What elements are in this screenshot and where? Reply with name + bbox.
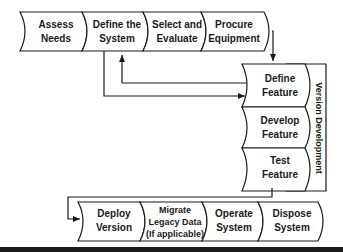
step-define-feature: Define Feature (242, 64, 310, 107)
step-label: Evaluate (156, 33, 198, 44)
step-label: Version (96, 222, 132, 233)
step-label: Operate (215, 208, 253, 219)
bottom-border-bar (0, 247, 343, 252)
step-label: Define (265, 73, 296, 84)
step-assess-needs: Assess Needs (20, 12, 87, 51)
step-label: Select and (152, 19, 202, 30)
step-dispose-system: Dispose System (258, 202, 323, 241)
step-label: Test (270, 155, 290, 166)
step-label: Migrate (159, 205, 191, 215)
bottom-row: Deploy Version Migrate Legacy Data (If a… (78, 202, 323, 241)
step-label: Define the (93, 19, 142, 30)
step-label: Feature (262, 169, 299, 180)
step-deploy-version: Deploy Version (78, 202, 145, 241)
version-development-label: Version Development (314, 82, 324, 174)
step-label: Needs (41, 33, 71, 44)
step-label: Procure (215, 19, 253, 30)
step-label: System (216, 222, 252, 233)
step-label: Develop (261, 115, 300, 126)
step-label: Feature (262, 87, 299, 98)
step-label: Legacy Data (148, 217, 202, 227)
top-row: Assess Needs Define the System Select an… (20, 12, 269, 51)
step-test-feature: Test Feature (242, 148, 310, 191)
step-label: Dispose (273, 208, 312, 219)
step-label: System (99, 33, 135, 44)
step-migrate-legacy-data: Migrate Legacy Data (If applicable) (140, 202, 207, 241)
step-define-the-system: Define the System (82, 12, 148, 51)
step-develop-feature: Develop Feature (242, 107, 310, 148)
step-operate-system: Operate System (202, 202, 263, 241)
arrow-procure-to-define-feature (272, 31, 273, 61)
step-label: System (274, 222, 310, 233)
arrow-define-system-to-define-feature (104, 51, 245, 96)
step-label: Assess (38, 19, 73, 30)
step-label: Equipment (208, 33, 260, 44)
step-label: Deploy (97, 208, 131, 219)
step-procure-equipment: Procure Equipment (201, 12, 269, 51)
lifecycle-diagram: Assess Needs Define the System Select an… (0, 0, 343, 252)
step-label: Feature (262, 129, 299, 140)
step-label: (If applicable) (146, 229, 204, 239)
step-select-and-evaluate: Select and Evaluate (143, 12, 206, 51)
version-steps: Define Feature Develop Feature Test Feat… (242, 64, 310, 191)
